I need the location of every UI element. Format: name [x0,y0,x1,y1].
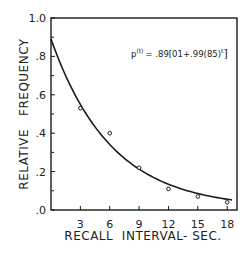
formula-body: = .89[01+.99(85) [145,49,221,59]
data-points [79,106,229,204]
data-point [225,201,229,205]
chart: .0.2.4.6.81.0 369121518 RELATIVE FREQUEN… [0,0,247,259]
x-axis-label: RECALL INTERVAL- SEC. [64,229,221,243]
data-point [137,166,141,170]
x-tick-label: 18 [220,218,234,231]
y-tick-label: .6 [36,89,47,102]
formula-close: ] [223,47,227,60]
y-tick-label: .8 [36,50,47,63]
data-point [167,187,171,191]
y-tick-label: .0 [36,204,47,217]
y-tick-label: .2 [36,166,47,179]
data-point [108,131,112,135]
fitted-curve [51,39,232,200]
data-point [79,106,83,110]
y-axis-label: RELATIVE FREQUENCY [17,38,31,190]
y-tick-label: .4 [36,127,47,140]
data-point [196,195,200,199]
y-tick-label: 1.0 [29,12,47,25]
plot-frame [51,18,237,210]
formula-annotation: p(t)= .89[01+.99(85)t] [131,47,228,60]
formula-sup: (t) [136,47,143,54]
